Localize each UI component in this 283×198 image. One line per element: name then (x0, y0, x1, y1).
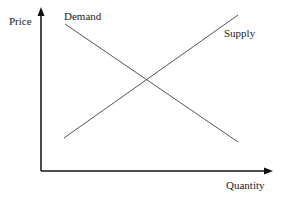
x-axis-label: Quantity (226, 179, 265, 191)
x-axis-arrow-icon (264, 168, 273, 175)
supply-label: Supply (224, 27, 255, 39)
supply-curve (64, 15, 238, 138)
demand-curve (65, 24, 238, 142)
demand-label: Demand (64, 10, 101, 22)
y-axis-label: Price (9, 15, 32, 27)
y-axis-arrow-icon (38, 7, 45, 16)
